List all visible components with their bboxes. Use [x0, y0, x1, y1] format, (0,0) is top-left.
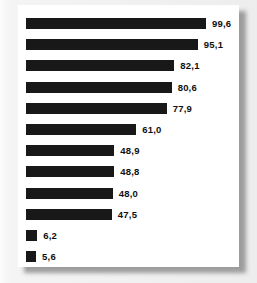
- bar-fill: [26, 103, 167, 114]
- bar-row: 6,2: [26, 230, 239, 241]
- bar-fill: [26, 82, 172, 93]
- bar-fill: [26, 145, 114, 156]
- bar: [26, 209, 112, 220]
- bar-value-label: 95,1: [204, 39, 223, 50]
- bar: [26, 188, 113, 199]
- bar-value-label: 47,5: [118, 209, 137, 220]
- bar-chart-figure: 99,695,182,180,677,961,048,948,848,047,5…: [0, 0, 257, 283]
- bar-value-label: 5,6: [42, 251, 56, 262]
- bar-value-label: 6,2: [43, 230, 57, 241]
- bar-row: 48,8: [26, 166, 239, 177]
- bar-fill: [26, 230, 37, 241]
- bar-value-label: 82,1: [180, 60, 199, 71]
- bar-series: 99,695,182,180,677,961,048,948,848,047,5…: [18, 5, 239, 267]
- bar-value-label: 48,0: [119, 188, 138, 199]
- bar-value-label: 48,9: [120, 145, 139, 156]
- bar: [26, 103, 167, 114]
- bar-value-label: 61,0: [142, 124, 161, 135]
- bar: [26, 124, 136, 135]
- bar-fill: [26, 60, 174, 71]
- bar-value-label: 77,9: [173, 103, 192, 114]
- bar-fill: [26, 124, 136, 135]
- bar: [26, 230, 37, 241]
- bar-row: 48,9: [26, 145, 239, 156]
- bar: [26, 82, 172, 93]
- bar-fill: [26, 39, 198, 50]
- bar-fill: [26, 251, 36, 262]
- bar-value-label: 99,6: [212, 18, 231, 29]
- bar: [26, 39, 198, 50]
- bar-row: 5,6: [26, 251, 239, 262]
- bar-fill: [26, 209, 112, 220]
- bar-row: 80,6: [26, 82, 239, 93]
- bar-row: 77,9: [26, 103, 239, 114]
- bar-row: 61,0: [26, 124, 239, 135]
- bar: [26, 18, 206, 29]
- bar-row: 95,1: [26, 39, 239, 50]
- bar-row: 99,6: [26, 18, 239, 29]
- bar: [26, 251, 36, 262]
- bar-row: 82,1: [26, 60, 239, 71]
- bar-fill: [26, 18, 206, 29]
- bar: [26, 60, 174, 71]
- bar-row: 48,0: [26, 188, 239, 199]
- bar-fill: [26, 188, 113, 199]
- bar-fill: [26, 166, 114, 177]
- bar-row: 47,5: [26, 209, 239, 220]
- bar-value-label: 48,8: [120, 166, 139, 177]
- bar-value-label: 80,6: [178, 82, 197, 93]
- bar: [26, 166, 114, 177]
- chart-plot-panel: 99,695,182,180,677,961,048,948,848,047,5…: [18, 5, 239, 267]
- bar: [26, 145, 114, 156]
